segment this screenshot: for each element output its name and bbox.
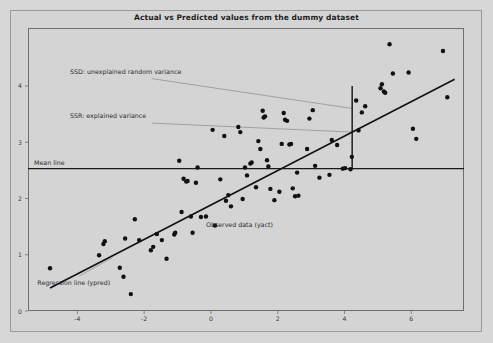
y-tick-label: 1: [2, 251, 22, 258]
data-point: [263, 114, 267, 118]
leader-line-ssd: [152, 79, 352, 109]
data-point: [254, 185, 258, 189]
x-tick-label: -4: [67, 315, 87, 322]
data-point: [277, 190, 281, 194]
data-point: [155, 232, 159, 236]
leader-line-regression-line: [79, 258, 112, 277]
data-point: [272, 198, 276, 202]
annotation-observed-data: Observed data (yact): [206, 221, 273, 228]
data-point: [243, 165, 247, 169]
data-point: [185, 179, 189, 183]
data-point: [123, 236, 127, 240]
data-point: [285, 119, 289, 123]
data-point: [236, 125, 240, 129]
data-point: [133, 217, 137, 221]
data-point: [380, 82, 384, 86]
data-point: [151, 245, 155, 249]
data-point: [210, 128, 214, 132]
annotation-mean-line: Mean line: [34, 159, 65, 166]
x-tick-label: 4: [334, 315, 354, 322]
annotation-ssd: SSD: unexplained random variance: [70, 68, 181, 75]
y-tick-label: 2: [2, 195, 22, 202]
data-point: [129, 292, 133, 296]
x-tick-label: 0: [201, 315, 221, 322]
x-tick-label: 6: [401, 315, 421, 322]
data-point: [190, 231, 194, 235]
annotation-regression-line: Regression line (ypred): [37, 279, 110, 286]
data-point: [265, 158, 269, 162]
data-point: [173, 231, 177, 235]
data-point: [441, 49, 445, 53]
annotation-leader-lines: [79, 79, 352, 276]
data-point: [103, 239, 107, 243]
y-tick-label: 0: [2, 308, 22, 315]
data-point: [282, 111, 286, 115]
data-point: [406, 70, 410, 74]
data-point: [199, 215, 203, 219]
data-point: [245, 173, 249, 177]
data-point: [317, 175, 321, 179]
data-point: [335, 143, 339, 147]
data-point: [445, 95, 449, 99]
data-point: [305, 147, 309, 151]
data-point: [121, 274, 125, 278]
data-point: [268, 187, 272, 191]
y-tick-label: 3: [2, 139, 22, 146]
data-point: [204, 214, 208, 218]
x-tick-label: -2: [134, 315, 154, 322]
data-point: [195, 165, 199, 169]
data-point: [289, 142, 293, 146]
data-point: [348, 167, 352, 171]
data-point: [118, 265, 122, 269]
data-point: [48, 266, 52, 270]
data-point: [179, 210, 183, 214]
data-point: [222, 134, 226, 138]
data-point: [383, 90, 387, 94]
data-point: [391, 71, 395, 75]
data-point: [411, 127, 415, 131]
x-tick-label: 2: [268, 315, 288, 322]
data-point: [229, 204, 233, 208]
data-point: [249, 160, 253, 164]
data-point: [295, 170, 299, 174]
data-point: [356, 128, 360, 132]
data-point: [226, 193, 230, 197]
data-point: [256, 139, 260, 143]
leader-line-ssr: [152, 123, 352, 132]
data-point: [387, 42, 391, 46]
data-point: [260, 108, 264, 112]
data-point: [240, 197, 244, 201]
data-point: [194, 181, 198, 185]
data-point: [343, 166, 347, 170]
data-point: [280, 142, 284, 146]
data-point: [266, 164, 270, 168]
annotation-ssr: SSR: explained variance: [70, 112, 146, 119]
data-point: [350, 155, 354, 159]
data-point: [160, 238, 164, 242]
data-point: [354, 98, 358, 102]
data-point: [313, 164, 317, 168]
data-point: [258, 147, 262, 151]
data-point: [177, 159, 181, 163]
y-tick-label: 4: [2, 82, 22, 89]
data-point: [363, 104, 367, 108]
data-point: [330, 138, 334, 142]
data-point: [307, 116, 311, 120]
data-point: [291, 186, 295, 190]
data-point: [378, 86, 382, 90]
data-point: [360, 110, 364, 114]
data-point: [327, 173, 331, 177]
chart-title: Actual vs Predicted values from the dumm…: [0, 13, 493, 22]
data-point: [97, 253, 101, 257]
data-point: [189, 214, 193, 218]
data-point: [218, 177, 222, 181]
data-point: [296, 193, 300, 197]
data-point: [164, 256, 168, 260]
data-point: [414, 137, 418, 141]
data-point: [311, 108, 315, 112]
data-point: [238, 130, 242, 134]
reference-lines: [28, 79, 464, 288]
data-point: [224, 199, 228, 203]
reference-line-regression-line-ypred: [50, 79, 455, 288]
chart-figure: Actual vs Predicted values from the dumm…: [0, 0, 493, 343]
